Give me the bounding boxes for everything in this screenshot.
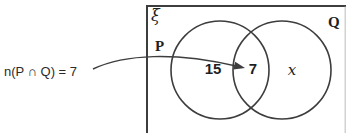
intersection-annotation: n(P ∩ Q) = 7 bbox=[4, 64, 77, 79]
set-q-only-value: x bbox=[288, 61, 297, 79]
venn-diagram-figure: n(P ∩ Q) = 7 ξ P Q 15 7 x bbox=[0, 0, 346, 133]
set-p-only-count: 15 bbox=[205, 60, 222, 77]
set-q-circle bbox=[233, 21, 331, 119]
intersection-count: 7 bbox=[249, 60, 257, 77]
universal-set-label: ξ bbox=[151, 6, 161, 25]
venn-diagram-canvas: n(P ∩ Q) = 7 ξ P Q 15 7 x bbox=[0, 0, 346, 133]
set-p-label: P bbox=[155, 38, 164, 54]
set-q-label: Q bbox=[328, 14, 340, 30]
annotation-arrowhead-icon bbox=[233, 62, 245, 70]
universal-set-border bbox=[147, 6, 346, 133]
